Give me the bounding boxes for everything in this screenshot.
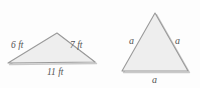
scalene-right-side-label: 7 ft: [70, 40, 83, 50]
equilateral-triangle-group: a a a: [122, 13, 190, 85]
equilateral-base-label: a: [152, 74, 157, 85]
equilateral-left-side-label: a: [129, 35, 134, 46]
scalene-base-label: 11 ft: [47, 67, 64, 77]
triangles-diagram: 6 ft 7 ft 11 ft a a a: [0, 0, 200, 88]
scalene-left-side-label: 6 ft: [11, 40, 24, 50]
geometry-figure: 6 ft 7 ft 11 ft a a a: [0, 0, 200, 88]
scalene-triangle-group: 6 ft 7 ft 11 ft: [8, 33, 97, 77]
equilateral-right-side-label: a: [175, 35, 180, 46]
